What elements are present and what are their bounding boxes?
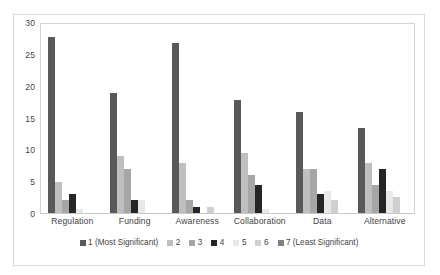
legend-entry[interactable]: 5 (233, 238, 246, 247)
bar[interactable] (262, 209, 269, 213)
bar-slot (207, 24, 214, 213)
bar-slot (131, 24, 138, 213)
bar[interactable] (331, 200, 338, 213)
legend-label: 3 (198, 238, 203, 247)
bar-slot (138, 24, 145, 213)
y-axis-tick-label: 5 (30, 177, 35, 187)
bar-slot (331, 24, 338, 213)
bar[interactable] (296, 112, 303, 213)
bar-slot (365, 24, 372, 213)
bar[interactable] (55, 182, 62, 214)
bar-slot (152, 24, 159, 213)
bar-slot (214, 24, 221, 213)
bar[interactable] (324, 191, 331, 213)
bar-slot (400, 24, 407, 213)
legend-swatch-icon (167, 240, 173, 246)
bar[interactable] (386, 191, 393, 213)
bar-group (41, 24, 103, 213)
bar[interactable] (69, 194, 76, 213)
bar-slot (62, 24, 69, 213)
bar-slot (241, 24, 248, 213)
bar-slot (358, 24, 365, 213)
bar-slot (69, 24, 76, 213)
bar-slot (372, 24, 379, 213)
legend-entry[interactable]: 7 (Least Significant) (278, 238, 359, 247)
bar-slot (248, 24, 255, 213)
bar[interactable] (303, 169, 310, 213)
bar[interactable] (317, 194, 324, 213)
bar-slot (55, 24, 62, 213)
bar-slot (262, 24, 269, 213)
bar-group (103, 24, 165, 213)
bar[interactable] (358, 128, 365, 213)
legend-label: 5 (242, 238, 247, 247)
bar-group (290, 24, 352, 213)
bar[interactable] (193, 207, 200, 213)
bar[interactable] (379, 169, 386, 213)
x-axis-category-label: Awareness (166, 216, 229, 226)
bar[interactable] (310, 169, 317, 213)
bar-slot (296, 24, 303, 213)
legend-swatch-icon (211, 240, 217, 246)
bar-slot (255, 24, 262, 213)
bar-slot (303, 24, 310, 213)
legend-swatch-icon (189, 240, 195, 246)
bar-slot (317, 24, 324, 213)
bar[interactable] (76, 209, 83, 213)
legend-label: 1 (Most Significant) (88, 238, 158, 247)
bar[interactable] (207, 207, 214, 213)
bar[interactable] (186, 200, 193, 213)
bar[interactable] (393, 197, 400, 213)
bar-slot (324, 24, 331, 213)
bar[interactable] (255, 185, 262, 213)
bar-slot (269, 24, 276, 213)
y-axis-tick-label: 15 (25, 114, 35, 124)
bar-slot (83, 24, 90, 213)
bar[interactable] (138, 200, 145, 213)
bar[interactable] (62, 200, 69, 213)
chart-figure: 051015202530 RegulationFundingAwarenessC… (13, 14, 425, 266)
bar-slot (172, 24, 179, 213)
bar[interactable] (248, 175, 255, 213)
x-axis-category-labels: RegulationFundingAwarenessCollaborationD… (41, 216, 416, 226)
bar[interactable] (131, 200, 138, 213)
y-axis-tick-label: 25 (25, 50, 35, 60)
bar-slot (386, 24, 393, 213)
bar-slot (200, 24, 207, 213)
legend-entry[interactable]: 2 (167, 238, 180, 247)
x-axis-category-label: Regulation (41, 216, 104, 226)
legend-label: 7 (Least Significant) (286, 238, 358, 247)
legend-label: 4 (220, 238, 225, 247)
chart-legend: 1 (Most Significant)234567 (Least Signif… (14, 238, 424, 247)
y-axis-tick-label: 10 (25, 145, 35, 155)
bar-slot (338, 24, 345, 213)
bar[interactable] (365, 163, 372, 213)
bar-slot (48, 24, 55, 213)
x-axis-category-label: Collaboration (229, 216, 292, 226)
bar[interactable] (241, 153, 248, 213)
bar-slot (90, 24, 97, 213)
bar[interactable] (172, 43, 179, 213)
bar[interactable] (110, 93, 117, 213)
bar[interactable] (234, 100, 241, 213)
bar-slot (310, 24, 317, 213)
legend-entry[interactable]: 4 (211, 238, 224, 247)
bar[interactable] (372, 185, 379, 213)
bar[interactable] (124, 169, 131, 213)
bar[interactable] (48, 37, 55, 213)
plot-area: 051015202530 (40, 23, 415, 214)
legend-entry[interactable]: 6 (255, 238, 268, 247)
bar[interactable] (179, 163, 186, 213)
bar-slot (379, 24, 386, 213)
bar[interactable] (117, 156, 124, 213)
bar-slot (179, 24, 186, 213)
bar-slot (117, 24, 124, 213)
bar-slot (124, 24, 131, 213)
legend-entry[interactable]: 1 (Most Significant) (80, 238, 159, 247)
bar-slot (145, 24, 152, 213)
legend-swatch-icon (80, 240, 86, 246)
legend-entry[interactable]: 3 (189, 238, 202, 247)
bar-group (228, 24, 290, 213)
y-axis-tick-label: 20 (25, 82, 35, 92)
bar-slot (186, 24, 193, 213)
